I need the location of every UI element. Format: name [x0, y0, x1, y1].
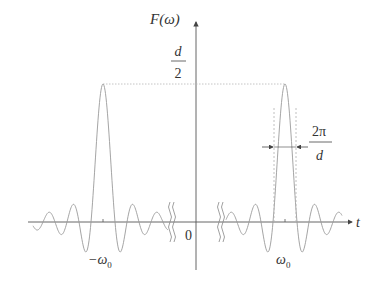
right-peak-label: ω0	[276, 252, 291, 270]
peak-height-denominator: 2	[175, 66, 182, 81]
peak-height-numerator: d	[175, 44, 183, 59]
left-sinc-curve	[33, 84, 168, 252]
right-sinc-curve	[226, 84, 342, 252]
width-label-denominator: d	[316, 148, 324, 163]
y-axis-label: F(ω)	[149, 11, 180, 28]
left-peak-label: −ω0	[88, 252, 112, 270]
x-axis-label: t	[356, 215, 361, 230]
width-label-numerator: 2π	[312, 124, 326, 139]
origin-label: 0	[185, 228, 192, 243]
fourier-spectrum-diagram: F(ω) d 2 2π d t 0 −ω0 ω0	[0, 0, 388, 287]
